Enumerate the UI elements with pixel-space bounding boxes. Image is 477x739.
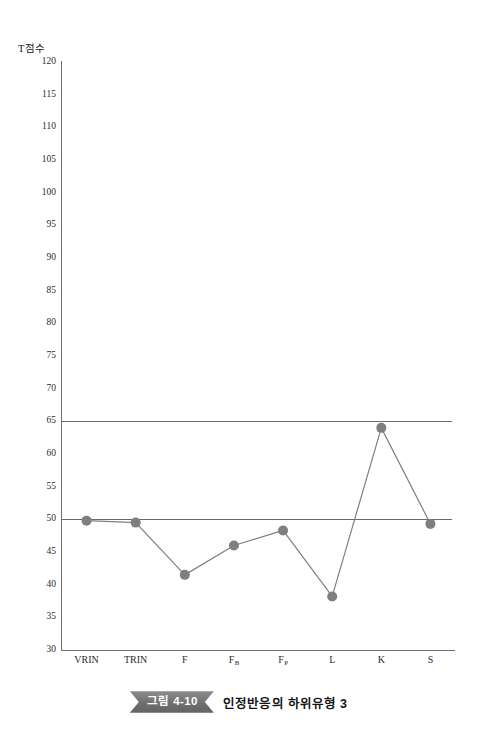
figure-root: T점수 120115110105100959085807570656055504… xyxy=(0,0,477,739)
x-tick-TRIN: TRIN xyxy=(124,655,147,665)
data-point-L xyxy=(327,591,337,601)
data-point-TRIN xyxy=(131,518,141,528)
data-point-S xyxy=(425,519,435,529)
x-tick-S: S xyxy=(428,655,434,665)
figure-caption-title: 인정반응의 하위유형 3 xyxy=(223,693,347,712)
data-point-K xyxy=(376,423,386,433)
x-tick-L: L xyxy=(329,655,335,665)
series-plot xyxy=(0,0,477,739)
data-point-F xyxy=(180,570,190,580)
figure-number-ribbon: 그림 4-10 xyxy=(130,691,214,712)
series-markers xyxy=(82,423,436,602)
x-tick-FP: FP xyxy=(278,655,287,665)
x-tick-K: K xyxy=(378,655,385,665)
x-tick-FB: FB xyxy=(229,655,239,665)
figure-caption: 그림 4-10 인정반응의 하위유형 3 xyxy=(0,688,477,716)
data-point-VRIN xyxy=(82,516,92,526)
data-point-FP xyxy=(278,525,288,535)
x-tick-F: F xyxy=(182,655,188,665)
data-point-FB xyxy=(229,540,239,550)
series-line xyxy=(87,428,431,597)
x-tick-VRIN: VRIN xyxy=(74,655,98,665)
